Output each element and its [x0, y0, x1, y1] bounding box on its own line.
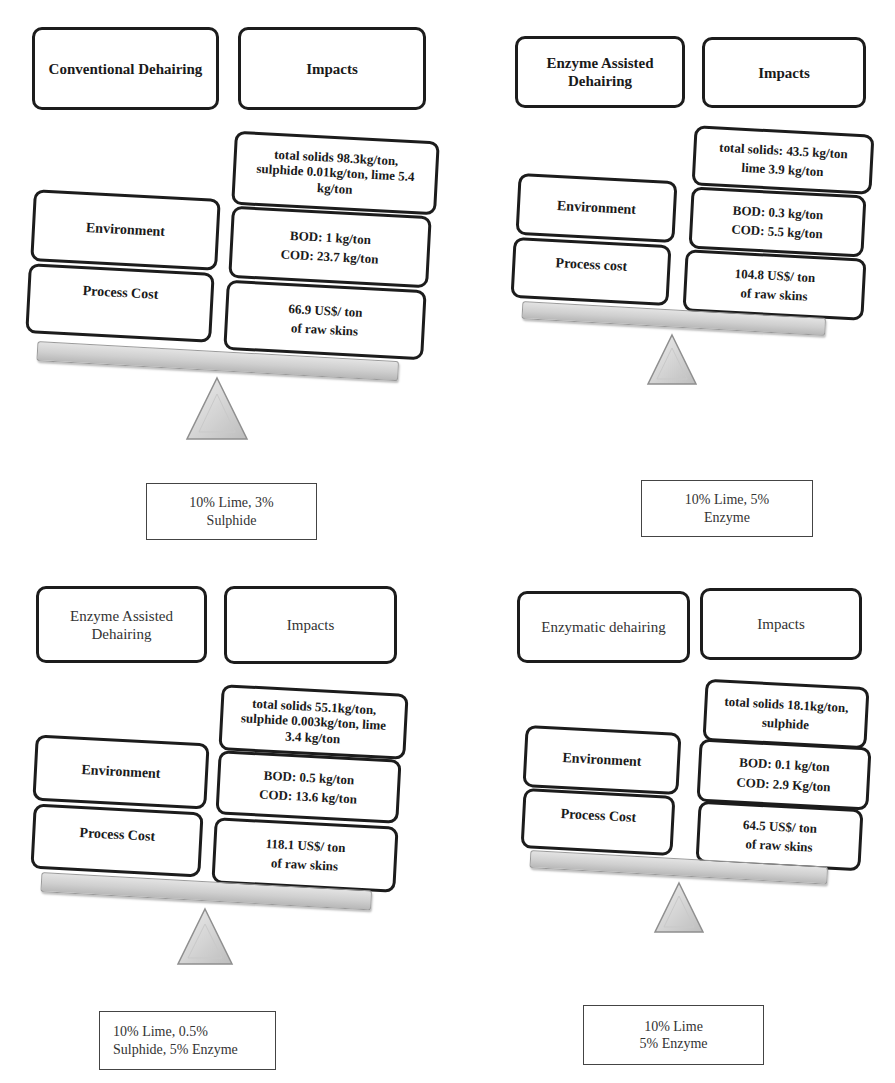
impact-bod-cod: BOD: 1 kg/ton COD: 23.7 kg/ton — [228, 206, 431, 288]
fulcrum-triangle-icon — [646, 333, 698, 387]
header-process-name: Enzyme Assisted Dehairing — [36, 586, 207, 663]
label-environment: Environment — [515, 173, 677, 243]
impact-total-solids: total solids 55.1kg/ton, sulphide 0.003k… — [218, 684, 408, 760]
header-process-name: Conventional Dehairing — [32, 27, 219, 110]
impact-process-cost: 64.5 US$/ ton of raw skins — [695, 801, 863, 872]
panel-enzyme-assisted-dehairing-1: Enzyme Assisted Dehairing Impacts total … — [0, 0, 895, 1083]
recipe-box: 10% Lime, 0.5% Sulphide, 5% Enzyme — [99, 1011, 276, 1070]
header-impacts: Impacts — [702, 37, 866, 108]
header-impacts: Impacts — [224, 586, 397, 664]
label-environment: Environment — [32, 734, 209, 809]
label-process-cost: Process Cost — [25, 263, 214, 343]
label-process-cost: Process Cost — [30, 804, 203, 878]
impact-process-cost: 118.1 US$/ ton of raw skins — [211, 817, 398, 893]
impact-bod-cod: BOD: 0.1 kg/ton COD: 2.9 Kg/ton — [696, 739, 871, 811]
label-process-cost: Process Cost — [521, 788, 676, 856]
impact-total-solids: total solids: 43.5 kg/ton lime 3.9 kg/to… — [692, 125, 875, 194]
recipe-box: 10% Lime 5% Enzyme — [583, 1005, 764, 1065]
fulcrum-triangle-icon — [176, 907, 234, 967]
fulcrum-triangle-icon — [653, 881, 705, 935]
impact-total-solids: total solids 98.3kg/ton, sulphide 0.01kg… — [231, 131, 440, 216]
impact-bod-cod: BOD: 0.5 kg/ton COD: 13.6 kg/ton — [215, 750, 401, 823]
recipe-box: 10% Lime, 3% Sulphide — [146, 483, 317, 540]
impact-process-cost: 104.8 US$/ ton of raw skins — [683, 249, 867, 320]
impact-bod-cod: BOD: 0.3 kg/ton COD: 5.5 kg/ton — [688, 186, 866, 257]
impact-process-cost: 66.9 US$/ ton of raw skins — [223, 280, 426, 360]
fulcrum-triangle-icon — [185, 376, 249, 442]
recipe-box: 10% Lime, 5% Enzyme — [641, 480, 813, 537]
label-environment: Environment — [522, 725, 681, 795]
header-impacts: Impacts — [700, 588, 862, 660]
header-impacts: Impacts — [238, 27, 426, 110]
impact-total-solids: total solids 18.1kg/ton, sulphide — [702, 679, 869, 749]
header-process-name: Enzyme Assisted Dehairing — [515, 36, 685, 108]
label-process-cost: Process cost — [511, 237, 672, 306]
header-process-name: Enzymatic dehairing — [517, 591, 690, 663]
label-environment: Environment — [30, 189, 221, 271]
